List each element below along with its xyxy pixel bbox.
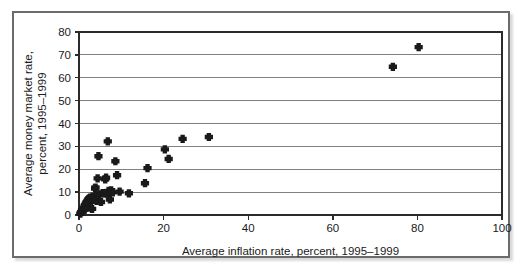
data-point [143,164,151,172]
data-points [76,43,423,218]
data-point [141,179,149,187]
series-countries [76,43,423,218]
y-axis-title-line2: percent, 1995–1999 [36,72,48,174]
x-tick-label: 100 [492,222,511,234]
data-point [111,157,119,165]
data-point [165,155,173,163]
x-tick-label: 60 [326,222,339,234]
y-tick-label: 0 [65,209,71,221]
data-point [415,43,423,51]
gridlines [79,55,502,192]
data-point [389,63,397,71]
x-axis-title: Average inflation rate, percent, 1995–19… [182,245,399,257]
y-tick-label: 70 [58,49,71,61]
y-tick-label: 10 [58,186,71,198]
figure-container: 01020304050607080 020406080100 Average i… [0,0,531,276]
data-point [205,133,213,141]
y-tick-label: 60 [58,72,71,84]
x-tick-label: 80 [411,222,424,234]
y-tick-label: 80 [58,26,71,38]
y-tick-label: 30 [58,140,71,152]
data-point [104,137,112,145]
data-point [179,135,187,143]
plot-wrapper: 01020304050607080 020406080100 Average i… [0,0,531,276]
x-axis-ticks: 020406080100 [76,215,512,234]
data-point [115,188,123,196]
y-axis-title: Average money market rate,percent, 1995–… [22,51,48,196]
x-tick-label: 0 [76,222,82,234]
data-point [94,174,102,182]
data-point [113,171,121,179]
data-point [125,189,133,197]
y-tick-label: 40 [58,118,71,130]
y-axis-title-line1: Average money market rate, [22,51,34,196]
y-axis-ticks: 01020304050607080 [58,26,79,221]
y-tick-label: 50 [58,95,71,107]
x-tick-label: 40 [242,222,255,234]
y-tick-label: 20 [58,163,71,175]
data-point [94,152,102,160]
scatter-chart: 01020304050607080 020406080100 Average i… [0,0,531,276]
x-tick-label: 20 [157,222,170,234]
